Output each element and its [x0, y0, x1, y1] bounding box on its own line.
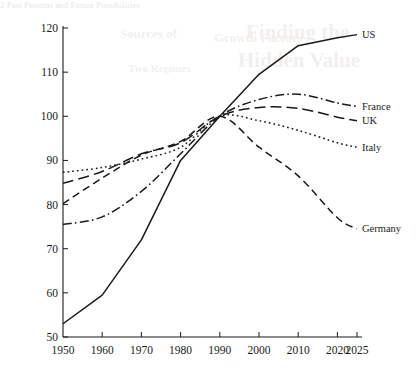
x-tick-label: 1970 — [130, 344, 153, 356]
x-tick-label: 2000 — [248, 344, 271, 356]
series-line-france — [63, 94, 357, 224]
axis-ticks — [63, 28, 357, 337]
line-chart: 5060708090100110120 19501960197019801990… — [0, 0, 419, 373]
x-tick-label: 2010 — [287, 344, 310, 356]
series-label-uk: UK — [362, 115, 378, 126]
x-tick-label: 1950 — [52, 344, 75, 356]
series-labels: USFranceUKItalyGermany — [362, 29, 402, 234]
y-tick-label: 120 — [41, 22, 59, 34]
y-tick-label: 60 — [47, 287, 59, 299]
y-tick-label: 80 — [47, 199, 59, 211]
x-axis-tick-labels: 195019601970198019902000201020202025 — [52, 344, 369, 356]
x-tick-label: 1980 — [169, 344, 192, 356]
y-tick-label: 50 — [47, 331, 59, 343]
series-label-france: France — [362, 101, 391, 112]
chart-canvas: 5060708090100110120 19501960197019801990… — [0, 0, 419, 373]
series-lines — [63, 35, 357, 324]
x-tick-label: 2025 — [346, 344, 369, 356]
y-tick-label: 90 — [47, 154, 59, 166]
x-tick-label: 1990 — [208, 344, 231, 356]
y-tick-label: 70 — [47, 243, 59, 255]
y-axis-tick-labels: 5060708090100110120 — [41, 22, 59, 343]
series-line-germany — [63, 116, 357, 229]
series-line-us — [63, 35, 357, 324]
series-label-germany: Germany — [362, 223, 402, 234]
series-label-italy: Italy — [362, 142, 382, 153]
y-tick-label: 110 — [41, 66, 58, 78]
y-tick-label: 100 — [41, 110, 59, 122]
x-tick-label: 1960 — [91, 344, 114, 356]
series-label-us: US — [362, 29, 376, 40]
